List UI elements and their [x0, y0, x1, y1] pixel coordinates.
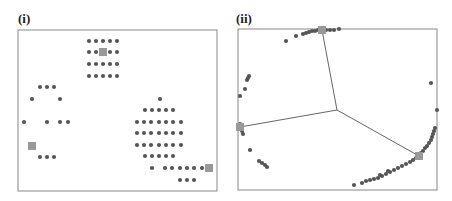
- data-point: [364, 179, 368, 183]
- data-point: [200, 166, 204, 170]
- data-point: [115, 50, 119, 54]
- data-point: [178, 178, 182, 182]
- data-point: [52, 155, 56, 159]
- data-point: [157, 143, 161, 147]
- spoke-line: [240, 110, 337, 127]
- data-point: [94, 39, 98, 43]
- data-point: [87, 74, 91, 78]
- data-point: [192, 178, 196, 182]
- data-point: [164, 143, 168, 147]
- data-point: [284, 39, 288, 43]
- data-point: [135, 131, 139, 135]
- data-point: [94, 62, 98, 66]
- data-point: [179, 143, 183, 147]
- data-point: [101, 62, 105, 66]
- data-point: [45, 120, 49, 124]
- data-point: [101, 74, 105, 78]
- data-point: [352, 183, 356, 187]
- data-point: [164, 120, 168, 124]
- data-point: [185, 178, 189, 182]
- data-point: [157, 120, 161, 124]
- data-point: [87, 50, 91, 54]
- data-point: [135, 143, 139, 147]
- data-point: [22, 120, 26, 124]
- data-point: [171, 120, 175, 124]
- cluster-center-marker: [205, 164, 213, 172]
- data-point: [143, 154, 147, 158]
- data-point: [435, 108, 439, 112]
- data-point: [94, 74, 98, 78]
- data-point: [149, 143, 153, 147]
- data-point: [247, 74, 251, 78]
- data-point: [150, 108, 154, 112]
- data-point: [241, 132, 245, 136]
- data-point: [149, 131, 153, 135]
- data-point: [158, 97, 162, 101]
- data-point: [87, 39, 91, 43]
- data-point: [150, 154, 154, 158]
- data-point: [408, 160, 412, 164]
- data-point: [248, 148, 252, 152]
- data-point: [45, 85, 49, 89]
- data-point: [392, 168, 396, 172]
- data-point: [185, 166, 189, 170]
- data-point: [157, 154, 161, 158]
- data-point: [243, 87, 247, 91]
- data-point: [396, 166, 400, 170]
- data-point: [400, 164, 404, 168]
- cluster-center-marker: [99, 48, 107, 56]
- cluster-center-marker: [236, 123, 244, 131]
- data-point: [337, 27, 341, 31]
- data-point: [142, 131, 146, 135]
- diagram-canvas: [0, 0, 452, 201]
- data-point: [238, 94, 242, 98]
- data-point: [101, 39, 105, 43]
- data-point: [108, 62, 112, 66]
- data-point: [135, 120, 139, 124]
- spoke-line: [322, 30, 337, 110]
- data-point: [157, 108, 161, 112]
- data-point: [94, 50, 98, 54]
- data-point: [178, 166, 182, 170]
- data-point: [164, 131, 168, 135]
- data-point: [58, 97, 62, 101]
- data-point: [143, 108, 147, 112]
- data-point: [115, 62, 119, 66]
- data-point: [52, 85, 56, 89]
- spoke-line: [337, 110, 419, 156]
- data-point: [404, 162, 408, 166]
- data-point: [171, 108, 175, 112]
- data-point: [368, 178, 372, 182]
- data-point: [372, 177, 376, 181]
- data-point: [108, 50, 112, 54]
- data-point: [171, 154, 175, 158]
- data-point: [142, 143, 146, 147]
- data-point: [179, 120, 183, 124]
- data-point: [149, 120, 153, 124]
- data-point: [38, 85, 42, 89]
- data-point: [66, 120, 70, 124]
- data-point: [30, 97, 34, 101]
- data-point: [429, 81, 433, 85]
- data-point: [360, 181, 364, 185]
- data-point: [115, 39, 119, 43]
- data-point: [115, 74, 119, 78]
- data-point: [87, 62, 91, 66]
- data-point: [171, 131, 175, 135]
- data-point: [108, 74, 112, 78]
- data-point: [192, 166, 196, 170]
- data-point: [171, 143, 175, 147]
- data-point: [378, 173, 382, 177]
- data-point: [150, 166, 154, 170]
- data-point: [157, 131, 161, 135]
- data-point: [328, 28, 332, 32]
- data-point: [179, 131, 183, 135]
- data-point: [108, 39, 112, 43]
- cluster-center-marker: [318, 26, 326, 34]
- data-point: [142, 120, 146, 124]
- cluster-center-marker: [415, 152, 423, 160]
- data-point: [265, 165, 269, 169]
- data-point: [332, 28, 336, 32]
- data-point: [386, 169, 390, 173]
- data-point: [58, 120, 62, 124]
